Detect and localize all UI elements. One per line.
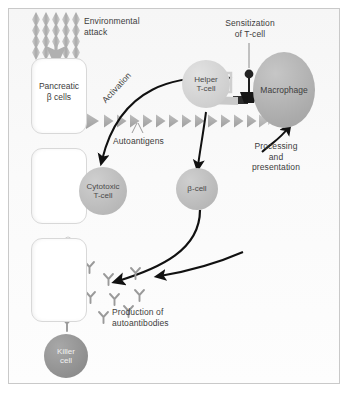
- macrophage: Macrophage: [253, 52, 315, 128]
- environmental-attack-label: Environmental attack: [84, 16, 140, 37]
- pancreatic-beta-cell-box-1: Pancreatic β cells: [31, 58, 87, 134]
- beta-cell-label: β-cell: [187, 184, 206, 194]
- beta-cell: β-cell: [176, 168, 218, 210]
- cytotoxic-t-cell: Cytotoxic T-cell: [79, 167, 127, 215]
- killer-cell: Killer cell: [44, 334, 88, 378]
- helper-t-cell: Helper T-cell: [182, 60, 230, 108]
- killer-cell-label: Killer cell: [57, 347, 75, 366]
- helper-t-cell-label: Helper T-cell: [194, 75, 218, 94]
- processing-and-presentation-label: Processing and presentation: [243, 141, 309, 173]
- sensitization-of-tcell-label: Sensitization of T-cell: [218, 18, 282, 39]
- autoantigens-label: Autoantigens: [113, 136, 164, 147]
- pancreatic-beta-cell-box-3: [31, 238, 87, 322]
- figure-root: Pancreatic β cells Helper T-cell Macroph…: [0, 0, 350, 395]
- cytotoxic-t-cell-label: Cytotoxic T-cell: [87, 182, 120, 201]
- macrophage-label: Macrophage: [260, 85, 307, 95]
- pancreatic-beta-cells-label: Pancreatic β cells: [32, 81, 86, 103]
- production-of-autoantibodies-label: Production of autoantibodies: [112, 307, 169, 328]
